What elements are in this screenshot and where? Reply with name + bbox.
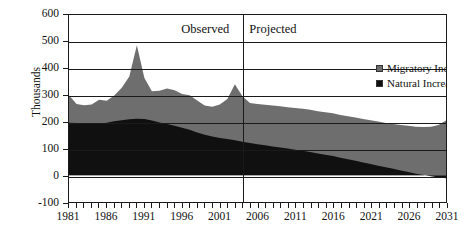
x-tick-label: 1981 <box>48 210 88 222</box>
x-tick-mark <box>83 203 84 208</box>
x-tick-mark <box>280 203 281 208</box>
x-tick-mark <box>333 203 334 208</box>
legend-swatch-natural-icon <box>376 80 383 87</box>
x-tick-mark <box>121 203 122 208</box>
x-tick-label: 1991 <box>124 210 164 222</box>
x-tick-label: 2011 <box>275 210 315 222</box>
x-tick-mark <box>91 203 92 208</box>
x-tick-label: 2016 <box>313 210 353 222</box>
legend-item-migratory: Migratory Increase <box>376 62 447 76</box>
legend-label-natural: Natural Increase <box>387 77 447 91</box>
x-tick-mark <box>402 203 403 208</box>
x-tick-mark <box>151 203 152 208</box>
x-tick-label: 2031 <box>427 210 467 222</box>
population-change-chart: Thousands -1000100200300400500600 198119… <box>0 0 473 250</box>
x-tick-mark <box>424 203 425 208</box>
x-tick-label: 2026 <box>389 210 429 222</box>
x-tick-mark <box>159 203 160 208</box>
gridline-200 <box>69 123 446 124</box>
observed-projected-divider <box>243 15 244 202</box>
x-tick-mark <box>311 203 312 208</box>
y-tick-label: 0 <box>0 170 59 182</box>
x-tick-mark <box>212 203 213 208</box>
x-tick-mark <box>197 203 198 208</box>
legend-label-migratory: Migratory Increase <box>387 62 447 76</box>
x-tick-mark <box>386 203 387 208</box>
y-tick-label: 600 <box>0 8 59 20</box>
x-tick-mark <box>106 203 107 208</box>
x-tick-mark <box>250 203 251 208</box>
gridline-0 <box>69 177 446 178</box>
x-tick-mark <box>189 203 190 208</box>
x-tick-mark <box>273 203 274 208</box>
y-tick-label: 100 <box>0 143 59 155</box>
x-tick-mark <box>182 203 183 208</box>
y-tick-label: 200 <box>0 116 59 128</box>
x-tick-mark <box>371 203 372 208</box>
x-tick-mark <box>379 203 380 208</box>
x-tick-mark <box>417 203 418 208</box>
x-tick-mark <box>136 203 137 208</box>
x-tick-mark <box>167 203 168 208</box>
x-tick-mark <box>356 203 357 208</box>
x-tick-label: 2001 <box>200 210 240 222</box>
x-tick-mark <box>432 203 433 208</box>
gridline-500 <box>69 42 446 43</box>
x-tick-mark <box>341 203 342 208</box>
x-tick-mark <box>144 203 145 208</box>
stacked-area-series <box>69 15 446 202</box>
x-tick-mark <box>220 203 221 208</box>
x-tick-mark <box>98 203 99 208</box>
observed-label: Observed <box>181 23 229 36</box>
legend-swatch-migratory-icon <box>376 65 383 72</box>
legend-item-natural: Natural Increase <box>376 77 447 91</box>
x-tick-label: 2021 <box>351 210 391 222</box>
gridline-300 <box>69 96 446 97</box>
x-tick-mark <box>447 203 448 208</box>
legend: Migratory Increase Natural Increase <box>376 62 447 91</box>
x-tick-mark <box>349 203 350 208</box>
y-tick-label: 300 <box>0 89 59 101</box>
gridline-100 <box>69 150 446 151</box>
x-tick-label: 2006 <box>238 210 278 222</box>
x-tick-mark <box>303 203 304 208</box>
x-tick-mark <box>174 203 175 208</box>
x-tick-mark <box>318 203 319 208</box>
x-tick-mark <box>364 203 365 208</box>
plot-area: Observed Projected Migratory Increase Na… <box>68 14 447 203</box>
x-tick-mark <box>204 203 205 208</box>
y-tick-label: 500 <box>0 35 59 47</box>
x-tick-mark <box>242 203 243 208</box>
y-tick-label: 400 <box>0 62 59 74</box>
x-tick-mark <box>258 203 259 208</box>
y-tick-label: -100 <box>0 197 59 209</box>
x-tick-label: 1986 <box>86 210 126 222</box>
x-tick-mark <box>235 203 236 208</box>
projected-label: Projected <box>249 23 296 36</box>
x-tick-mark <box>409 203 410 208</box>
x-tick-mark <box>227 203 228 208</box>
x-tick-mark <box>326 203 327 208</box>
x-tick-mark <box>295 203 296 208</box>
x-tick-mark <box>439 203 440 208</box>
x-tick-label: 1996 <box>162 210 202 222</box>
x-tick-mark <box>265 203 266 208</box>
x-tick-mark <box>288 203 289 208</box>
x-tick-mark <box>76 203 77 208</box>
x-tick-mark <box>129 203 130 208</box>
x-tick-mark <box>68 203 69 208</box>
x-tick-mark <box>394 203 395 208</box>
x-tick-mark <box>114 203 115 208</box>
